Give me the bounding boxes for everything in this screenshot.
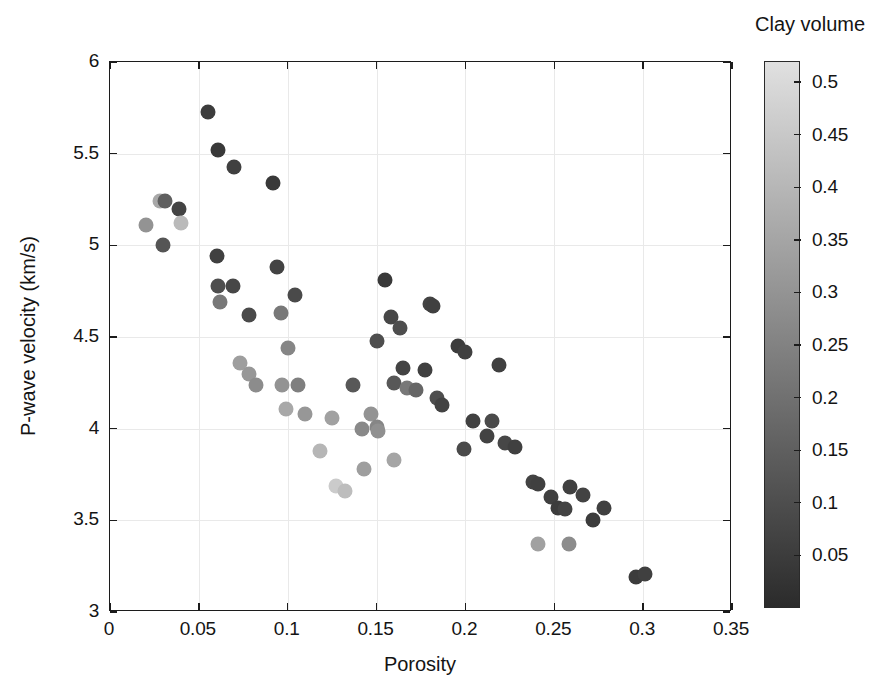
scatter-point	[485, 414, 500, 429]
colorbar-tick-label: 0.25	[812, 334, 848, 356]
scatter-point	[378, 273, 393, 288]
x-axis-tick	[554, 62, 555, 69]
scatter-point	[225, 278, 240, 293]
x-tick-label: 0.1	[274, 618, 300, 640]
colorbar-tick-label: 0.35	[812, 229, 848, 251]
y-axis-tick	[723, 611, 730, 612]
colorbar-tick	[794, 502, 801, 503]
scatter-point	[287, 287, 302, 302]
y-axis-tick	[110, 153, 117, 154]
scatter-point	[435, 397, 450, 412]
y-axis-tick	[723, 245, 730, 246]
y-axis-title-text: P-wave velocity (km/s)	[17, 236, 40, 436]
colorbar-tick-label: 0.1	[812, 492, 838, 514]
plot-area	[109, 61, 731, 611]
scatter-point	[369, 333, 384, 348]
scatter-point	[396, 361, 411, 376]
scatter-point	[561, 537, 576, 552]
x-tick-label: 0.05	[180, 618, 216, 640]
y-tick-label: 3	[89, 600, 99, 622]
scatter-point	[575, 487, 590, 502]
scatter-point	[156, 238, 171, 253]
y-tick-label: 5.5	[73, 142, 99, 164]
gridline-horizontal	[110, 429, 730, 430]
scatter-point	[241, 308, 256, 323]
gridline-vertical	[643, 62, 644, 610]
scatter-point	[278, 401, 293, 416]
colorbar-tick	[794, 134, 801, 135]
scatter-point	[392, 320, 407, 335]
scatter-point	[637, 566, 652, 581]
gridline-vertical	[465, 62, 466, 610]
colorbar-tick-label: 0.5	[812, 71, 838, 93]
y-axis-tick	[723, 153, 730, 154]
y-axis-tick	[723, 428, 730, 429]
gridline-vertical	[199, 62, 200, 610]
x-tick-label: 0.15	[357, 618, 393, 640]
gridline-horizontal	[110, 520, 730, 521]
x-axis-tick	[376, 62, 377, 69]
scatter-point	[586, 513, 601, 528]
gridline-horizontal	[110, 337, 730, 338]
scatter-point	[337, 484, 352, 499]
scatter-point	[266, 176, 281, 191]
gridline-horizontal	[110, 154, 730, 155]
scatter-point	[357, 462, 372, 477]
x-tick-label: 0.25	[535, 618, 571, 640]
y-axis-tick	[110, 245, 117, 246]
x-axis-tick	[642, 603, 643, 610]
colorbar-tick	[794, 292, 801, 293]
colorbar-tick-label: 0.4	[812, 176, 838, 198]
scatter-point	[456, 441, 471, 456]
y-tick-label: 3.5	[73, 508, 99, 530]
y-axis-tick	[110, 520, 117, 521]
colorbar-tick-label: 0.15	[812, 439, 848, 461]
y-axis-tick	[110, 428, 117, 429]
scatter-point	[211, 143, 226, 158]
scatter-point	[174, 216, 189, 231]
colorbar-tick	[794, 81, 801, 82]
figure-canvas: P-wave velocity (km/s) 00.050.10.150.20.…	[0, 0, 883, 699]
x-axis-tick	[731, 62, 732, 69]
x-axis-tick	[465, 603, 466, 610]
colorbar-tick	[794, 450, 801, 451]
x-axis-tick	[465, 62, 466, 69]
scatter-point	[371, 423, 386, 438]
colorbar-tick	[794, 239, 801, 240]
x-axis-tick	[109, 603, 110, 610]
scatter-point	[479, 429, 494, 444]
colorbar-tick-label: 0.45	[812, 124, 848, 146]
colorbar-tick-label: 0.2	[812, 387, 838, 409]
x-tick-label: 0	[104, 618, 114, 640]
scatter-point	[209, 249, 224, 264]
x-axis-tick	[109, 62, 110, 69]
scatter-point	[291, 377, 306, 392]
colorbar-tick-label: 0.3	[812, 281, 838, 303]
scatter-point	[458, 344, 473, 359]
scatter-point	[325, 410, 340, 425]
y-tick-label: 5	[89, 233, 99, 255]
y-axis-tick	[723, 520, 730, 521]
scatter-point	[346, 377, 361, 392]
scatter-point	[492, 357, 507, 372]
scatter-point	[275, 377, 290, 392]
x-axis-tick	[198, 62, 199, 69]
x-tick-label: 0.35	[713, 618, 749, 640]
x-axis-tick	[287, 62, 288, 69]
scatter-point	[213, 295, 228, 310]
y-axis-tick	[110, 611, 117, 612]
scatter-point	[248, 377, 263, 392]
x-axis-tick	[731, 603, 732, 610]
colorbar-title: Clay volume	[755, 13, 865, 36]
scatter-point	[531, 476, 546, 491]
scatter-point	[211, 278, 226, 293]
scatter-point	[158, 194, 173, 209]
x-axis-title: Porosity	[109, 653, 731, 676]
x-axis-tick	[376, 603, 377, 610]
y-axis-tick	[110, 61, 117, 62]
scatter-point	[273, 306, 288, 321]
gridline-vertical	[288, 62, 289, 610]
colorbar-tick	[794, 555, 801, 556]
scatter-point	[270, 260, 285, 275]
x-tick-label: 0.3	[629, 618, 655, 640]
